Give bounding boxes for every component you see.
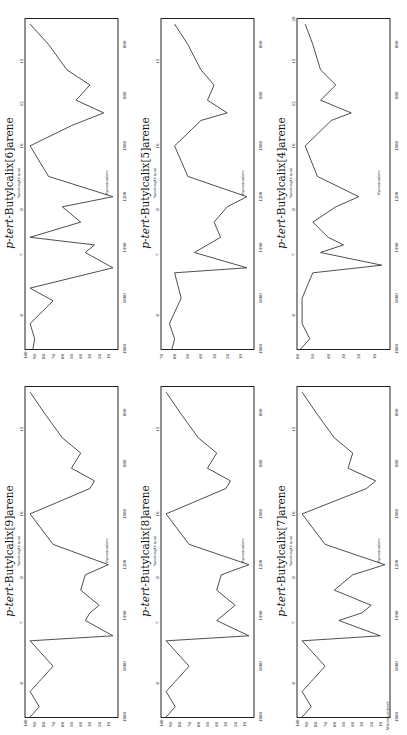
wavelength-tick: 6	[154, 314, 159, 317]
spectrum-line	[300, 24, 381, 349]
y-tick: 10	[371, 354, 376, 359]
x-tick: 1400	[393, 242, 398, 252]
y-tick: 80	[313, 722, 318, 727]
wavelength-tick: 12	[18, 101, 23, 106]
wavelength-tick: 15	[18, 427, 23, 432]
wavelength-tick: 10	[18, 511, 23, 516]
y-tick: 40	[78, 354, 83, 359]
panel-title: p-tert-Butylcalix[4]arene	[274, 0, 286, 366]
x-tick: 1200	[121, 560, 126, 570]
wavelength-tick: 10	[290, 511, 295, 516]
wavelength-tick: 7	[154, 621, 159, 624]
x-tick: 1600	[257, 661, 262, 671]
wavelength-tick: 8	[290, 208, 295, 211]
y-tick: 90	[32, 354, 37, 359]
panel-calix4: p-tert-Butylcalix[4]areneWavelength (um)…	[272, 0, 407, 366]
x-tick: 600	[393, 409, 398, 417]
x-tick: 600	[121, 41, 126, 49]
x-tick: 600	[121, 409, 126, 417]
x-tick: 1800	[121, 712, 126, 722]
wavelength-tick: 10	[290, 143, 295, 148]
x-tick: 1400	[257, 242, 262, 252]
x-tick: 1400	[393, 610, 398, 620]
y-tick: 20	[96, 722, 101, 727]
wavelength-tick: 7	[290, 253, 295, 256]
x-tick: 1800	[393, 344, 398, 354]
wavelength-tick: 20	[290, 16, 295, 21]
x-tick: 1200	[121, 192, 126, 202]
panel-calix5: p-tert-Butylcalix[5]areneWavelength (um)…	[136, 0, 271, 366]
x-tick: 1600	[121, 293, 126, 303]
y-tick: 50	[69, 722, 74, 727]
wavenumber-axis-label: Wavenumbers	[376, 0, 380, 366]
wavelength-tick: 8	[18, 208, 23, 211]
y-tick: 80	[41, 354, 46, 359]
y-tick: 40	[198, 354, 203, 359]
spectrum-line	[166, 392, 249, 717]
y-tick: 30	[87, 722, 92, 727]
wavenumber-axis-label: Wavenumbers	[240, 368, 244, 734]
y-tick: 100	[295, 719, 300, 727]
x-tick: 800	[257, 459, 262, 467]
panel-title: p-tert-Butylcalix[6]arene	[2, 0, 14, 366]
x-tick: 1800	[257, 712, 262, 722]
y-tick: 100	[23, 719, 28, 727]
x-tick: 1600	[393, 293, 398, 303]
y-tick: 50	[69, 354, 74, 359]
x-tick: 1000	[121, 509, 126, 519]
wavelength-tick: 15	[154, 59, 159, 64]
spectrum-line	[30, 24, 113, 349]
y-tick: 90	[32, 722, 37, 727]
wavelength-tick: 8	[18, 576, 23, 579]
x-tick: 600	[257, 409, 262, 417]
y-tick: 70	[186, 722, 191, 727]
wavelength-axis-label: Wavelength (um)	[152, 368, 156, 734]
page-footer: Wavenumbers	[385, 640, 395, 730]
wavelength-axis-label: Wavelength (um)	[152, 0, 156, 366]
wavelength-tick: 15	[290, 427, 295, 432]
x-tick: 800	[257, 91, 262, 99]
y-tick: 30	[341, 354, 346, 359]
y-tick: 30	[87, 354, 92, 359]
x-tick: 1000	[393, 509, 398, 519]
wavelength-tick: 6	[290, 682, 295, 685]
wavelength-tick: 7	[18, 621, 23, 624]
x-tick: 1400	[121, 610, 126, 620]
spectrum-line	[30, 392, 113, 717]
x-tick: 1000	[257, 141, 262, 151]
wavelength-tick: 10	[154, 143, 159, 148]
y-tick: 60	[195, 722, 200, 727]
wavelength-tick: 7	[290, 621, 295, 624]
wavelength-tick: 6	[154, 682, 159, 685]
y-tick: 20	[368, 722, 373, 727]
panel-title: p-tert-Butylcalix[7]arene	[274, 368, 286, 734]
x-tick: 1600	[257, 293, 262, 303]
wavelength-axis-label: Wavelength (um)	[16, 0, 20, 366]
y-tick: 60	[295, 354, 300, 359]
x-tick: 800	[121, 91, 126, 99]
wavenumber-axis-label: Wavenumbers	[376, 368, 380, 734]
panel-calix8: p-tert-Butylcalix[8]areneWavelength (um)…	[136, 368, 271, 734]
wavelength-tick: 15	[290, 59, 295, 64]
y-tick: 70	[50, 722, 55, 727]
wavelength-tick: 15	[18, 59, 23, 64]
y-tick: 20	[96, 354, 101, 359]
y-tick: 30	[223, 722, 228, 727]
y-tick: 20	[224, 354, 229, 359]
wavelength-tick: 8	[290, 576, 295, 579]
wavelength-tick: 8	[154, 208, 159, 211]
wavelength-tick: 8	[154, 576, 159, 579]
y-tick: 40	[78, 722, 83, 727]
y-tick: 20	[356, 354, 361, 359]
y-tick: 80	[177, 722, 182, 727]
wavelength-axis-label: Wavelength (um)	[288, 0, 292, 366]
wavelength-tick: 12	[290, 101, 295, 106]
x-tick: 1800	[257, 344, 262, 354]
wavelength-tick: 10	[154, 511, 159, 516]
x-tick: 600	[393, 41, 398, 49]
y-tick: 70	[322, 722, 327, 727]
y-tick: 50	[310, 354, 315, 359]
y-tick: 50	[185, 354, 190, 359]
panel-calix6: p-tert-Butylcalix[6]areneWavelength (um)…	[0, 0, 135, 366]
wavenumber-axis-label: Wavenumbers	[104, 368, 108, 734]
